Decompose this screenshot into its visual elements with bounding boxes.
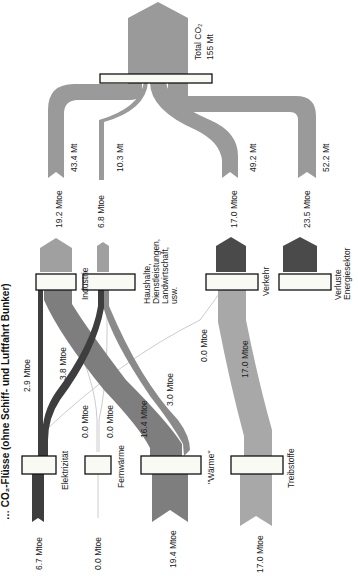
node-treibstoffe[interactable] (231, 456, 283, 474)
node-total[interactable] (100, 74, 212, 83)
carrier-value-waerme: 19.4 Mtoe (168, 530, 178, 568)
node-elektrizitaet[interactable] (22, 456, 56, 474)
arrow-verluste (283, 237, 317, 272)
diagram-title: … CO₂-Flüsse (ohne Schiff- und Luftfahrt… (0, 283, 11, 520)
flow-label-treib-verk: 17.0 Mtoe (240, 340, 250, 378)
flow-label-waerme-verk: 0.0 Mtoe (199, 329, 209, 362)
energy-label-haushalte: 6.8 Mtoe (96, 195, 106, 228)
flow-label-waerme-haus: 3.0 Mtoe (165, 373, 175, 406)
energy-label-verkehr: 17.0 Mtoe (229, 190, 239, 228)
sector-name-haushalte: Haushalte, Dienstleistungen, Landwirtsch… (142, 239, 179, 304)
sankey-diagram: … CO₂-Flüsse (ohne Schiff- und Luftfahrt… (0, 0, 358, 584)
co2-label-verluste: 52.2 Mt (321, 143, 331, 172)
flow-label-waerme-ind: 16.4 Mtoe (139, 400, 149, 438)
node-waerme[interactable] (141, 456, 201, 474)
node-industrie[interactable] (36, 274, 76, 290)
arrow-industrie (40, 238, 72, 272)
arrow-haushalte (97, 242, 109, 272)
sector-name-verluste: Verluste Energiesektor (333, 247, 352, 300)
sector-name-industrie: Industrie (80, 267, 90, 300)
energy-label-industrie: 19.2 Mtoe (54, 190, 64, 228)
total-co2-arrow (128, 2, 188, 80)
flow-elektrizitaet-industrie (38, 290, 43, 456)
carrier-name-fernwaerme: Fernwärme (116, 445, 126, 488)
co2-label-haushalte: 10.3 Mt (115, 143, 125, 172)
total-value: 155 Mt (205, 33, 215, 60)
carrier-name-elektrizitaet: Elektrizität (60, 450, 70, 490)
svg-text:Energiesektor: Energiesektor (342, 247, 352, 300)
sector-name-verkehr: Verkehr (261, 267, 271, 296)
node-fernwaerme[interactable] (85, 456, 111, 474)
carrier-value-elektrizitaet: 6.7 Mtoe (34, 537, 44, 570)
flow-label-elek-ind: 2.9 Mtoe (22, 359, 32, 392)
co2-label-industrie: 43.4 Mt (69, 143, 79, 172)
flow-label-fern-ind: 0.0 Mtoe (80, 405, 90, 438)
node-verkehr[interactable] (206, 274, 258, 290)
flow-label-elek-haus: 3.8 Mtoe (58, 347, 68, 380)
carrier-value-treibstoffe: 17.0 Mtoe (255, 535, 265, 573)
co2-label-verkehr: 49.2 Mt (248, 143, 258, 172)
carrier-name-treibstoffe: Treibstoffe (286, 448, 296, 488)
carrier-value-fernwaerme: 0.0 Mtoe (93, 537, 103, 570)
energy-label-verluste: 23.5 Mtoe (302, 190, 312, 228)
total-label: Total CO₂ (193, 24, 203, 60)
carrier-name-waerme: "Wärme" (206, 451, 216, 484)
co2-flow-industrie (48, 82, 142, 178)
node-haushalte[interactable] (83, 274, 135, 290)
co2-flows (48, 2, 316, 180)
svg-text:usw.: usw. (169, 287, 179, 304)
co2-flow-verluste (168, 82, 316, 178)
flow-label-fern-haus: 0.0 Mtoe (105, 405, 115, 438)
arrow-verkehr (216, 237, 246, 272)
energy-flows (38, 290, 272, 456)
node-verluste[interactable] (279, 274, 331, 290)
